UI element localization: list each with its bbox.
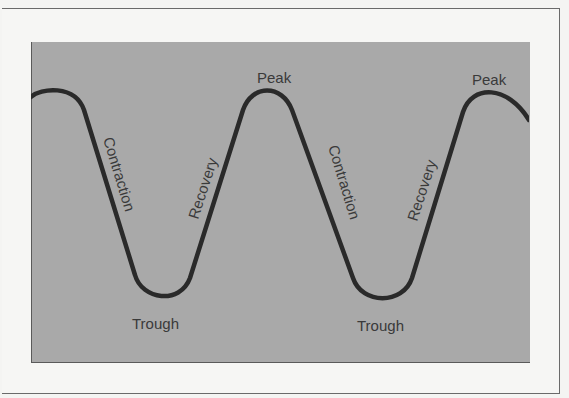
business-cycle-diagram: Peak Peak Trough Trough Contraction Cont… (0, 0, 569, 398)
cycle-curve (31, 90, 529, 298)
trough-label-1: Trough (132, 315, 179, 332)
recovery-label-1: Recovery (185, 155, 221, 221)
peak-label-2: Peak (472, 71, 507, 88)
peak-label-1: Peak (257, 69, 292, 86)
trough-label-2: Trough (357, 317, 404, 334)
contraction-label-2: Contraction (325, 143, 364, 221)
